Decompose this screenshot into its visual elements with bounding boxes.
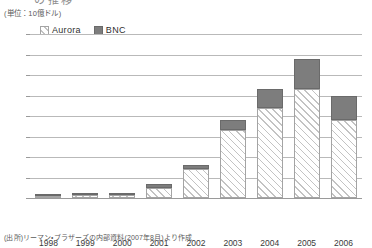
y-tick-70: [26, 55, 30, 56]
x-axis-label-2006: 2006: [324, 238, 364, 248]
bar-2003[interactable]: [220, 120, 246, 198]
x-axis-label-2005: 2005: [287, 238, 327, 248]
bar-2006[interactable]: [331, 96, 357, 199]
y-tick-30: [26, 137, 30, 138]
gridline-0: [30, 198, 362, 199]
y-tick-10: [26, 178, 30, 179]
bar-segment-aurora-2003: [220, 130, 246, 198]
source-note: (出所)リーマン・ブラザーズの内部資料(2007年8月)より作成: [4, 232, 192, 242]
y-tick-40: [26, 116, 30, 117]
bar-segment-aurora-2004: [257, 108, 283, 198]
figure-title-text: の推移: [34, 0, 75, 7]
y-tick-0: [26, 198, 30, 199]
plot-area: 0102030405060708019981999200020012002200…: [30, 34, 362, 198]
bar-segment-bnc-2000: [109, 193, 135, 195]
gridline-80: [30, 34, 362, 35]
bar-segment-bnc-2005: [294, 59, 320, 90]
bar-segment-aurora-2002: [183, 169, 209, 198]
bar-segment-bnc-2004: [257, 89, 283, 107]
bar-segment-bnc-1999: [72, 193, 98, 195]
y-tick-50: [26, 96, 30, 97]
figure-title-cropped: の推移: [0, 0, 372, 7]
bar-segment-bnc-1998: [35, 194, 61, 196]
bar-segment-aurora-1999: [72, 195, 98, 198]
y-tick-80: [26, 34, 30, 35]
bar-segment-aurora-2000: [109, 195, 135, 198]
bar-segment-aurora-2001: [146, 188, 172, 198]
bar-2002[interactable]: [183, 165, 209, 198]
bar-segment-bnc-2001: [146, 184, 172, 188]
bar-segment-aurora-1998: [35, 196, 61, 198]
unit-label: (単位：10億ドル): [4, 7, 61, 18]
bar-2004[interactable]: [257, 89, 283, 198]
x-axis-label-2003: 2003: [213, 238, 253, 248]
bar-2001[interactable]: [146, 184, 172, 198]
bar-1999[interactable]: [72, 193, 98, 198]
bar-1998[interactable]: [35, 194, 61, 198]
x-axis-label-2004: 2004: [250, 238, 290, 248]
bar-segment-aurora-2006: [331, 120, 357, 198]
bar-2000[interactable]: [109, 193, 135, 198]
y-tick-60: [26, 75, 30, 76]
bar-2005[interactable]: [294, 59, 320, 198]
bar-segment-aurora-2005: [294, 89, 320, 198]
gridline-70: [30, 55, 362, 56]
bar-segment-bnc-2003: [220, 120, 246, 130]
y-tick-20: [26, 157, 30, 158]
bar-segment-bnc-2002: [183, 165, 209, 169]
bar-segment-bnc-2006: [331, 96, 357, 121]
